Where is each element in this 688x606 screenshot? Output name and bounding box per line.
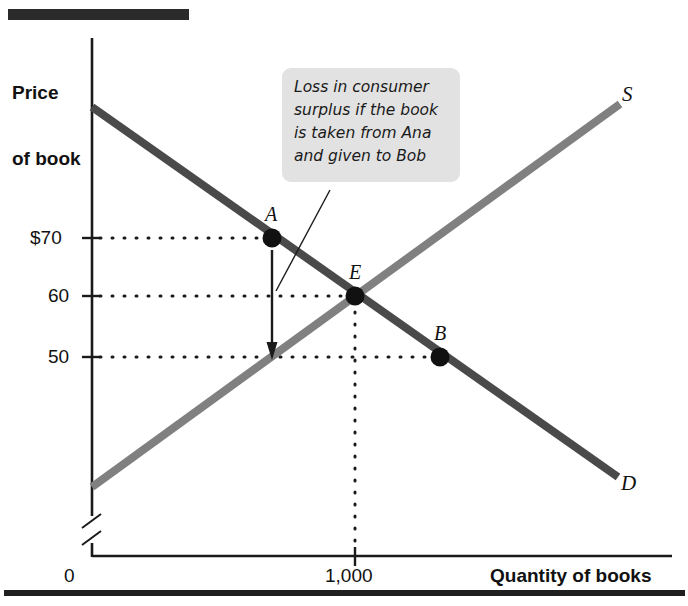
y-axis-title-line2: of book xyxy=(12,148,81,170)
bottom-decorative-rule xyxy=(4,590,685,596)
annotation-callout-text: Loss in consumer surplus if the book is … xyxy=(294,76,450,168)
point-label-A: A xyxy=(265,203,277,226)
point-label-B: B xyxy=(434,322,446,345)
point-label-E: E xyxy=(349,261,361,284)
data-point-B xyxy=(431,348,450,367)
axis-break-icon-2 xyxy=(82,531,101,545)
supply-curve-label: S xyxy=(622,82,633,107)
y-axis-title-line1: Price xyxy=(12,82,81,104)
data-point-E xyxy=(346,287,365,306)
data-point-A xyxy=(263,229,282,248)
x-axis-title: Quantity of books xyxy=(490,565,652,587)
axis-break-icon xyxy=(82,514,101,528)
annotation-callout: Loss in consumer surplus if the book is … xyxy=(282,68,460,182)
figure-root: Price of book $70 60 50 0 1,000 Quantity… xyxy=(0,0,688,606)
x-origin-label: 0 xyxy=(64,565,75,587)
x-tick-label-1000: 1,000 xyxy=(325,565,373,587)
y-tick-label-70: $70 xyxy=(30,227,62,249)
y-tick-label-60: 60 xyxy=(48,285,69,307)
demand-curve-label: D xyxy=(621,471,636,496)
y-axis-title: Price of book xyxy=(12,38,81,214)
y-tick-label-50: 50 xyxy=(48,346,69,368)
